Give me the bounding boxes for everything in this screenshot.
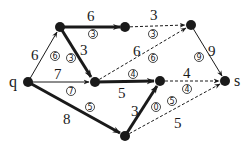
flow-D-E: 4 [129,70,138,80]
flow-q-A: 6 [51,52,60,62]
edge-C-s [191,25,222,76]
edge-F-E [125,86,157,136]
capacity-q-A: 6 [31,47,39,63]
flow-q-D: 7 [67,87,76,97]
svg-text:3: 3 [90,30,95,39]
flow-A-B: 3 [89,30,98,40]
node-F [120,131,130,141]
capacity-D-E: 5 [118,85,126,101]
svg-text:6: 6 [52,52,57,61]
capacity-B-C: 3 [150,7,158,23]
svg-text:7: 7 [68,87,73,96]
svg-text:6: 6 [150,54,155,63]
capacity-q-D: 7 [54,66,62,82]
flow-q-F: 5 [86,103,95,113]
capacity-D-C: 6 [133,43,141,59]
flow-F-E: 0 [152,103,161,113]
flow-F-s: 5 [168,97,177,107]
node-E [155,76,165,86]
node-A [55,22,65,32]
flow-A-D: 3 [67,54,76,64]
svg-text:9: 9 [196,53,201,62]
svg-text:4: 4 [130,70,135,79]
svg-text:3: 3 [68,54,73,63]
node-D [90,77,100,87]
flow-B-C: 3 [149,30,158,40]
capacity-F-E: 3 [131,103,139,119]
edge-D-E [95,81,154,82]
svg-text:5: 5 [169,97,174,106]
node-label-s: s [234,72,240,89]
node-B [120,22,130,32]
node-q [23,77,33,87]
edge-q-F [28,82,120,133]
edge-D-C [95,28,186,82]
capacity-F-s: 5 [174,115,182,131]
edge-F-s [125,84,220,136]
capacity-A-D: 3 [80,42,88,58]
node-C [186,20,196,30]
flow-E-s: 4 [183,85,192,95]
flow-labels: 6 3 3 3 7 6 4 9 4 5 0 5 [51,30,204,113]
capacity-E-s: 4 [183,65,191,81]
svg-text:3: 3 [150,30,155,39]
svg-text:5: 5 [87,103,92,112]
capacity-A-B: 6 [87,8,95,24]
capacity-q-F: 8 [63,111,71,127]
node-s [220,76,230,86]
flow-C-s: 9 [195,53,204,63]
network-flow-diagram: q s 6 6 3 3 7 6 5 9 4 8 3 5 6 3 3 3 7 6 … [0,0,250,148]
node-label-q: q [9,73,17,91]
svg-text:4: 4 [184,85,189,94]
edge-B-C [125,25,185,27]
flow-D-C: 6 [149,54,158,64]
svg-text:0: 0 [153,103,158,112]
capacity-C-s: 9 [208,43,216,59]
